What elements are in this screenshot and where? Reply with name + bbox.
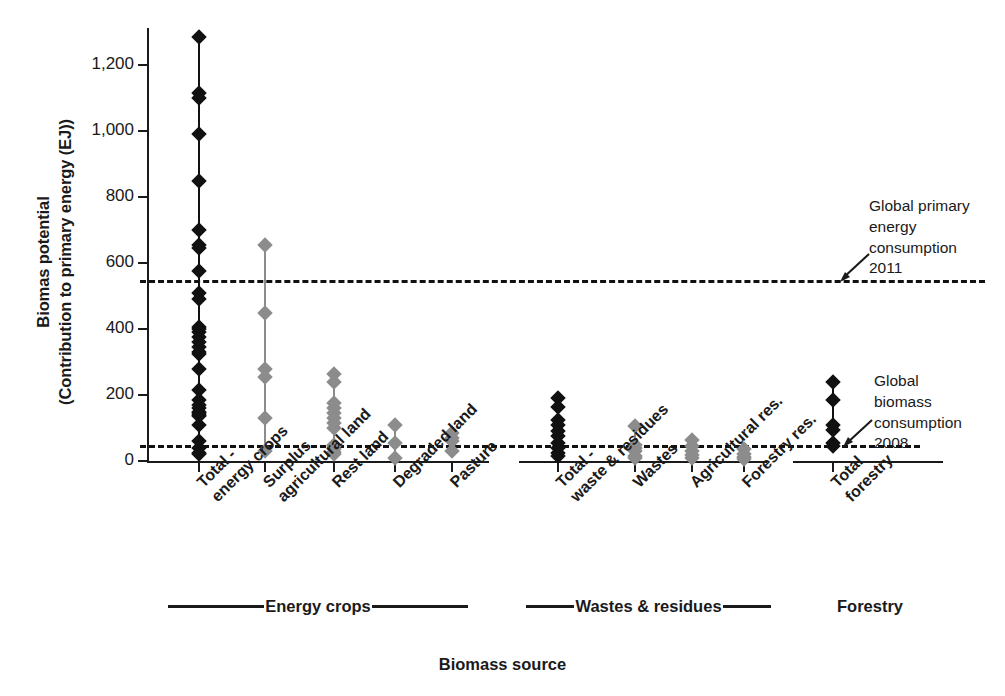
annotation-global-primary-energy-2011: Global primaryenergyconsumption2011 <box>869 196 970 279</box>
annotation-primary-energy-line-2: consumption <box>869 238 970 259</box>
group-rule-left-0 <box>168 605 264 607</box>
y-tick-0 <box>138 460 149 462</box>
data-point <box>191 361 207 377</box>
data-point <box>191 263 207 279</box>
group-name-0: Energy crops <box>264 597 371 616</box>
chart-figure: Biomas potential (Contribution to primar… <box>0 0 1005 696</box>
annotation-biomass-line-0: Global <box>874 371 962 392</box>
y-tick-label-400: 400 <box>60 318 134 338</box>
annotation-biomass-line-3: 2008 <box>874 433 962 454</box>
annotation-biomass-line-2: consumption <box>874 413 962 434</box>
group-label-wrap-1: Wastes & residues <box>526 597 771 616</box>
data-point <box>387 451 403 467</box>
annotation-arrow-primary-icon <box>838 252 878 287</box>
y-tick-1200 <box>138 64 149 66</box>
annotation-biomass-line-1: biomass <box>874 392 962 413</box>
y-tick-400 <box>138 328 149 330</box>
y-tick-label-1000: 1,000 <box>60 120 134 140</box>
group-label-wrap-0: Energy crops <box>168 597 468 616</box>
y-tick-label-1200: 1,200 <box>60 54 134 74</box>
category-label-7: Agricultural res. <box>686 391 787 492</box>
group-name-1: Wastes & residues <box>574 597 722 616</box>
data-point <box>825 392 841 408</box>
y-tick-1000 <box>138 130 149 132</box>
group-rule-right-1 <box>723 605 771 607</box>
group-name-2: Forestry <box>836 597 904 616</box>
y-axis-line <box>147 28 149 463</box>
y-tick-label-800: 800 <box>60 186 134 206</box>
annotation-primary-energy-line-0: Global primary <box>869 196 970 217</box>
annotation-primary-energy-line-1: energy <box>869 217 970 238</box>
y-tick-200 <box>138 394 149 396</box>
data-point <box>257 305 273 321</box>
group-label-wrap-2: Forestry <box>795 597 945 616</box>
data-point <box>387 417 403 433</box>
annotation-global-biomass-2008: Globalbiomassconsumption2008 <box>874 371 962 454</box>
data-point <box>191 127 207 143</box>
annotation-arrow-biomass-icon <box>840 417 880 452</box>
y-tick-label-600: 600 <box>60 252 134 272</box>
y-tick-label-0: 0 <box>60 450 134 470</box>
data-point <box>257 237 273 253</box>
data-point <box>191 29 207 45</box>
data-point <box>825 374 841 390</box>
data-point <box>191 222 207 238</box>
y-tick-800 <box>138 196 149 198</box>
group-rule-left-1 <box>526 605 574 607</box>
y-axis-title-text-1: Biomas potential <box>33 47 55 477</box>
x-axis-title: Biomass source <box>0 655 1005 674</box>
y-tick-label-200: 200 <box>60 384 134 404</box>
annotation-primary-energy-line-3: 2011 <box>869 258 970 279</box>
data-point <box>191 173 207 189</box>
y-tick-600 <box>138 262 149 264</box>
group-rule-right-0 <box>372 605 468 607</box>
